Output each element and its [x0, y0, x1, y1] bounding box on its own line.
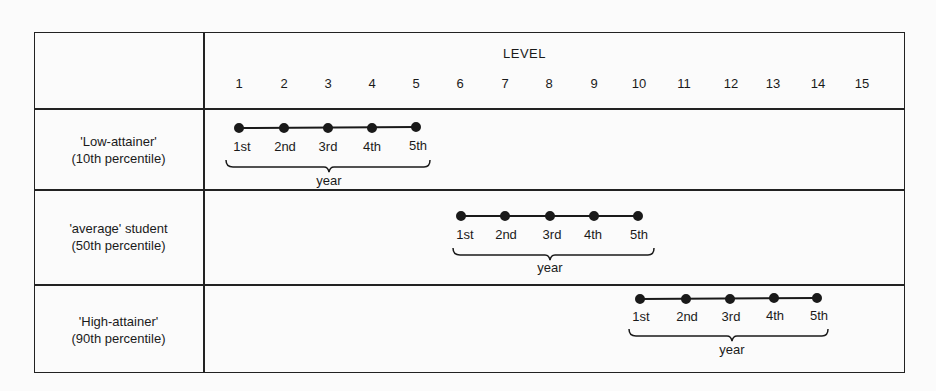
year-label: 3rd	[722, 309, 741, 324]
year-label: 5th	[630, 227, 648, 242]
year-label: 2nd	[495, 227, 517, 242]
year-label: 1st	[456, 227, 473, 242]
year-label: 5th	[810, 308, 828, 323]
year-label: 2nd	[676, 309, 698, 324]
year-label: 3rd	[319, 139, 338, 154]
year-label: 3rd	[543, 227, 562, 242]
year-label: 4th	[363, 139, 381, 154]
year-label: 2nd	[274, 139, 296, 154]
brace-label: year	[537, 260, 562, 275]
brace-label: year	[316, 173, 341, 188]
year-label: 4th	[766, 308, 784, 323]
year-label: 1st	[632, 309, 649, 324]
year-label: 1st	[233, 139, 250, 154]
progression-lines	[0, 0, 936, 391]
year-label: 5th	[409, 138, 427, 153]
brace-label: year	[719, 342, 744, 357]
year-label: 4th	[584, 227, 602, 242]
